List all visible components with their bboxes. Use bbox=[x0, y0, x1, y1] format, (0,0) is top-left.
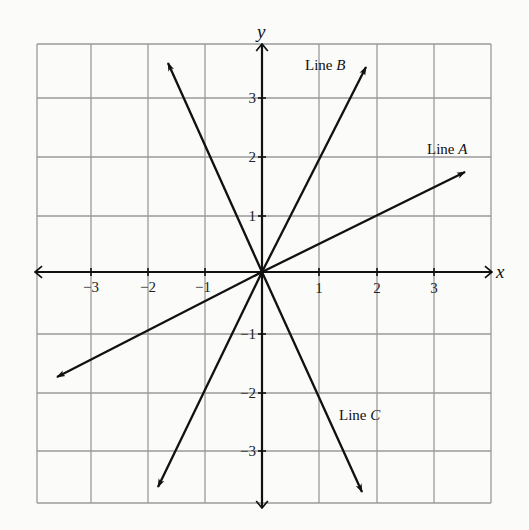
y-tick-label: 1 bbox=[249, 208, 257, 224]
grid bbox=[37, 44, 491, 503]
y-tick-label: 2 bbox=[249, 149, 257, 165]
y-tick-label: −3 bbox=[240, 443, 256, 459]
y-tick-label: 3 bbox=[249, 90, 257, 106]
x-tick-label: −2 bbox=[140, 279, 156, 295]
line-a-label: Line A bbox=[427, 141, 468, 157]
x-tick-label: 3 bbox=[430, 280, 438, 296]
line-c-lower-ray bbox=[262, 272, 362, 492]
x-axis-label: x bbox=[495, 261, 505, 282]
y-axis-label: y bbox=[255, 21, 266, 42]
coordinate-plane-figure: x y −3 −2 −1 1 2 3 3 2 1 −1 −2 −3 bbox=[0, 0, 529, 530]
y-tick-label: −2 bbox=[240, 385, 256, 401]
coordinate-plane-svg: x y −3 −2 −1 1 2 3 3 2 1 −1 −2 −3 bbox=[0, 0, 529, 530]
line-b-label: Line B bbox=[305, 57, 345, 73]
line-c-label: Line C bbox=[339, 407, 381, 423]
x-tick-label: −1 bbox=[195, 279, 211, 295]
x-tick-label: 1 bbox=[315, 280, 323, 296]
x-tick-labels: −3 −2 −1 1 2 3 bbox=[83, 279, 438, 296]
x-tick-label: 2 bbox=[373, 280, 381, 296]
x-tick-label: −3 bbox=[83, 279, 99, 295]
y-tick-labels: 3 2 1 −1 −2 −3 bbox=[240, 90, 256, 459]
y-tick-label: −1 bbox=[240, 326, 256, 342]
